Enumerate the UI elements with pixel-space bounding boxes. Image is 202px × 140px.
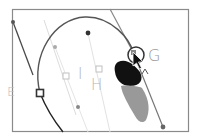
bezier-canvas[interactable] — [0, 0, 202, 140]
tangent-line-upper — [110, 9, 133, 52]
point-label-g: G — [148, 48, 160, 64]
anchor-square-h[interactable] — [96, 66, 102, 72]
bezier-path-arc[interactable] — [38, 17, 133, 93]
handle-dot-lower-mid[interactable] — [76, 105, 80, 109]
anchor-square-selected[interactable] — [37, 90, 44, 97]
guide-line-i — [44, 20, 76, 115]
shape-gray-cone[interactable] — [121, 86, 149, 122]
point-label-i: I — [78, 67, 82, 82]
guide-line-lower — [55, 47, 88, 132]
path-segment-left[interactable] — [13, 22, 33, 75]
point-label-h: H — [91, 78, 102, 93]
bezier-path-lower[interactable] — [40, 93, 63, 132]
handle-dot-upper[interactable] — [86, 31, 91, 36]
anchor-square-i[interactable] — [63, 73, 69, 79]
point-label-e: E — [7, 85, 15, 98]
handle-dot-left[interactable] — [53, 45, 57, 49]
anchor-dot-top-left[interactable] — [11, 20, 15, 24]
handle-dot-bottom[interactable] — [161, 125, 166, 130]
caret-mark-icon — [142, 69, 148, 74]
